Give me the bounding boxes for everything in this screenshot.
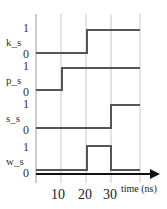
timing-diagram: 1 k_s 0 1 p_s 0 1 s_s 0 1 w_s 0 10 20 30… — [0, 0, 167, 209]
waveform-k-s — [36, 30, 140, 53]
x-tick-30: 30 — [103, 188, 117, 202]
k-s-name: k_s — [6, 36, 21, 48]
s-s-name: s_s — [6, 112, 20, 124]
x-axis-label: time (ns) — [121, 184, 157, 194]
waveform-s-s — [36, 105, 140, 128]
s-s-high-label: 1 — [23, 98, 29, 110]
waveform-p-s — [36, 68, 140, 90]
w-s-name: w_s — [6, 155, 24, 167]
w-s-high-label: 1 — [23, 141, 29, 153]
waveform-w-s — [36, 146, 140, 170]
w-s-low-label: 0 — [23, 167, 29, 179]
waveforms — [36, 30, 140, 170]
s-s-low-label: 0 — [23, 124, 29, 136]
p-s-name: p_s — [6, 74, 21, 86]
x-tick-20: 20 — [78, 188, 92, 202]
p-s-high-label: 1 — [23, 60, 29, 72]
x-tick-10: 10 — [51, 188, 65, 202]
arrow-right-icon — [150, 169, 160, 179]
k-s-high-label: 1 — [23, 22, 29, 34]
